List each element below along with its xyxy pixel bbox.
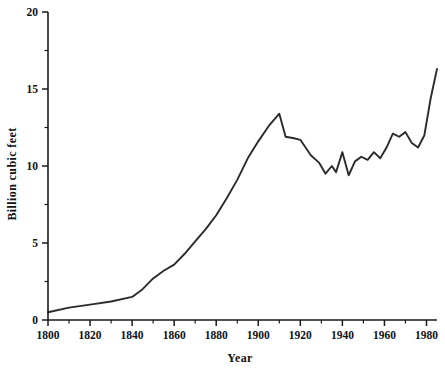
x-tick-label: 1980 [415, 329, 438, 341]
x-axis-title: Year [227, 351, 253, 365]
y-tick-label: 5 [32, 237, 38, 249]
x-tick-label: 1960 [373, 329, 396, 341]
x-tick-label: 1940 [331, 329, 354, 341]
x-tick-label: 1900 [247, 329, 270, 341]
y-tick-label: 20 [27, 6, 39, 18]
plot-area [48, 69, 437, 312]
y-tick-label: 15 [27, 83, 39, 95]
x-tick-label: 1840 [121, 329, 144, 341]
line-chart: 05101520 1800182018401860188019001920194… [0, 0, 445, 371]
y-tick-label: 0 [32, 314, 38, 326]
chart-canvas: 05101520 1800182018401860188019001920194… [0, 0, 445, 371]
data-line-billion-cubic-feet [48, 69, 437, 312]
y-axis-title: Billion cubic feet [5, 127, 19, 220]
y-tick-label: 10 [27, 160, 39, 172]
x-tick-label: 1820 [79, 329, 102, 341]
x-axis: 1800182018401860188019001920194019601980 [37, 320, 439, 341]
x-tick-label: 1800 [37, 329, 60, 341]
x-tick-label: 1920 [289, 329, 312, 341]
x-tick-label: 1860 [163, 329, 186, 341]
y-axis: 05101520 [27, 6, 49, 326]
x-tick-label: 1880 [205, 329, 228, 341]
